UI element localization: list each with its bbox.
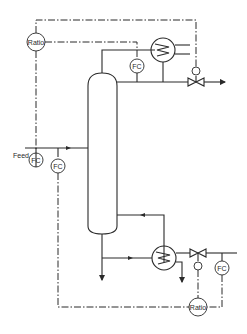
ratio-bottom-label: Ratio <box>190 304 206 311</box>
feed-label: Feed <box>13 152 29 159</box>
fc-feed-upper-controller: FC <box>29 148 43 167</box>
diagram-canvas: FC Ratio FC Feed FC <box>0 0 247 334</box>
bottom-signal-lines <box>58 173 222 307</box>
condenser-icon <box>151 38 190 82</box>
overhead-vapor-line <box>102 50 155 73</box>
ratio-bottom-controller: Ratio <box>189 298 207 316</box>
fc-bottom-label: FC <box>217 265 226 272</box>
bottom-control-valve-icon <box>190 249 237 270</box>
feed-line: Feed <box>13 146 88 159</box>
top-signal-lines <box>36 20 196 150</box>
ratio-top-controller: Ratio <box>27 33 45 51</box>
reboiler-icon <box>152 246 190 282</box>
fc-top-label: FC <box>132 63 141 70</box>
process-diagram: FC Ratio FC Feed FC <box>0 0 247 334</box>
bottoms-line <box>102 234 152 280</box>
ratio-top-label: Ratio <box>28 39 44 46</box>
top-control-valve-icon <box>188 67 204 86</box>
distillation-column <box>88 73 117 234</box>
fc-feed-lower-controller: FC <box>51 148 65 173</box>
fc-feed-lower-label: FC <box>53 163 62 170</box>
fc-bottom-controller: FC <box>215 253 229 275</box>
reboiler-return-line <box>117 213 164 262</box>
fc-top-controller: FC <box>130 59 144 82</box>
